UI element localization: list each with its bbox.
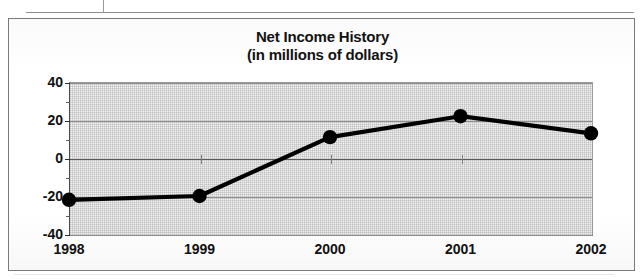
y-tick-label: 40 — [17, 75, 63, 89]
y-axis-minor-tick — [66, 140, 70, 141]
y-axis-minor-tick — [66, 102, 70, 103]
y-axis-minor-tick — [66, 216, 70, 217]
y-tick-label: -40 — [17, 227, 63, 241]
chart-title-line1: Net Income History — [256, 28, 389, 45]
x-tick-label: 1999 — [184, 241, 215, 257]
table-cell-border-fragment — [26, 0, 634, 13]
y-axis-tick — [65, 197, 70, 198]
x-axis-labels: 19981999200020012002 — [69, 241, 591, 261]
x-axis-tick — [201, 155, 202, 164]
y-axis-tick — [65, 159, 70, 160]
x-tick-label: 2002 — [575, 241, 606, 257]
x-tick-label: 2000 — [314, 241, 345, 257]
x-tick-label: 2001 — [445, 241, 476, 257]
y-tick-label: 20 — [17, 113, 63, 127]
y-axis-tick — [65, 121, 70, 122]
y-tick-label: -20 — [17, 189, 63, 203]
scan-edge-smudge — [14, 274, 614, 275]
gridline — [70, 235, 592, 236]
x-axis-tick — [462, 155, 463, 164]
y-tick-label: 0 — [17, 151, 63, 165]
plot-area — [69, 82, 593, 236]
gridline — [70, 83, 592, 84]
y-axis-tick — [65, 235, 70, 236]
gridline — [70, 121, 592, 122]
y-axis-labels: 40 20 0 -20 -40 — [15, 82, 63, 234]
gridline — [70, 197, 592, 198]
table-column-divider — [103, 0, 104, 13]
chart-title: Net Income History (in millions of dolla… — [9, 28, 636, 64]
x-tick-label: 1998 — [53, 241, 84, 257]
screenshot-page: Net Income History (in millions of dolla… — [0, 0, 643, 279]
y-axis-minor-tick — [66, 178, 70, 179]
y-axis-tick — [65, 83, 70, 84]
chart-frame: Net Income History (in millions of dolla… — [8, 18, 635, 271]
chart-title-line2: (in millions of dollars) — [9, 46, 636, 64]
x-axis-tick — [331, 155, 332, 164]
